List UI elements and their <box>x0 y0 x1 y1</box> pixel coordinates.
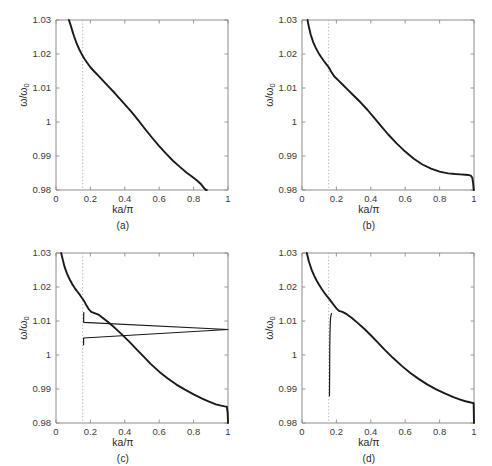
svg-text:1.01: 1.01 <box>33 315 52 326</box>
svg-text:0.98: 0.98 <box>279 184 298 195</box>
svg-text:1.03: 1.03 <box>33 247 52 258</box>
panel-d-caption: (d) <box>246 453 492 464</box>
panel-b: 00.20.40.60.810.980.9911.011.021.03 ω/ω0… <box>246 0 492 233</box>
panel-a-y-axis-label-sub: 0 <box>22 83 31 87</box>
svg-text:0.99: 0.99 <box>279 150 298 161</box>
svg-text:0.98: 0.98 <box>279 417 298 428</box>
svg-text:1.02: 1.02 <box>279 48 298 59</box>
svg-text:0.99: 0.99 <box>33 383 52 394</box>
panel-c-y-axis-label-sub: 0 <box>22 316 31 320</box>
svg-text:1: 1 <box>292 116 297 127</box>
panel-a-caption: (a) <box>0 220 246 231</box>
panel-c-x-axis-label: ka/π <box>0 436 246 448</box>
svg-text:1.02: 1.02 <box>279 281 298 292</box>
svg-text:1.01: 1.01 <box>279 315 298 326</box>
panel-d-plot: 00.20.40.60.810.980.9911.011.021.03 <box>246 233 492 466</box>
figure-dispersion-relations: 00.20.40.60.810.980.9911.011.021.03 ω/ω0… <box>0 0 492 466</box>
panel-a-plot: 00.20.40.60.810.980.9911.011.021.03 <box>0 0 246 233</box>
panel-c-caption: (c) <box>0 453 246 464</box>
svg-text:1.02: 1.02 <box>33 48 52 59</box>
svg-text:1: 1 <box>46 116 51 127</box>
panel-d-y-axis-label-text: ω/ω <box>263 320 275 339</box>
panel-b-x-axis-label: ka/π <box>246 203 492 215</box>
svg-text:0.98: 0.98 <box>33 184 52 195</box>
svg-text:1: 1 <box>292 349 297 360</box>
svg-text:1.01: 1.01 <box>33 82 52 93</box>
panel-a-y-axis-label-text: ω/ω <box>17 87 29 106</box>
svg-text:0.99: 0.99 <box>279 383 298 394</box>
panel-a: 00.20.40.60.810.980.9911.011.021.03 ω/ω0… <box>0 0 246 233</box>
panel-d-y-axis-label: ω/ω0 <box>263 298 277 358</box>
panel-b-y-axis-label-sub: 0 <box>268 83 277 87</box>
panel-d-y-axis-label-sub: 0 <box>268 316 277 320</box>
svg-text:1: 1 <box>46 349 51 360</box>
panel-a-y-axis-label: ω/ω0 <box>17 65 31 125</box>
panel-b-y-axis-label-text: ω/ω <box>263 87 275 106</box>
svg-text:1.02: 1.02 <box>33 281 52 292</box>
panel-d: 00.20.40.60.810.980.9911.011.021.03 ω/ω0… <box>246 233 492 466</box>
svg-text:0.99: 0.99 <box>33 150 52 161</box>
svg-text:1.03: 1.03 <box>279 247 298 258</box>
panel-b-caption: (b) <box>246 220 492 231</box>
panel-d-x-axis-label: ka/π <box>246 436 492 448</box>
panel-a-x-axis-label: ka/π <box>0 203 246 215</box>
panel-c: 00.20.40.60.810.980.9911.011.021.03 ω/ω0… <box>0 233 246 466</box>
panel-b-plot: 00.20.40.60.810.980.9911.011.021.03 <box>246 0 492 233</box>
svg-text:0.98: 0.98 <box>33 417 52 428</box>
panel-c-y-axis-label-text: ω/ω <box>17 320 29 339</box>
svg-text:1.03: 1.03 <box>279 14 298 25</box>
svg-text:1.01: 1.01 <box>279 82 298 93</box>
panel-c-plot: 00.20.40.60.810.980.9911.011.021.03 <box>0 233 246 466</box>
panel-b-y-axis-label: ω/ω0 <box>263 65 277 125</box>
panel-c-y-axis-label: ω/ω0 <box>17 298 31 358</box>
svg-text:1.03: 1.03 <box>33 14 52 25</box>
